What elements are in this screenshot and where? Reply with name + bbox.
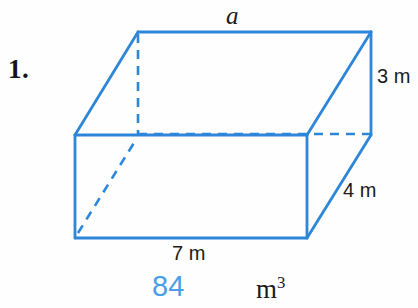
answer-unit-cubic-meters: m3 [256,276,285,303]
unit-base: m [256,274,277,304]
visible-edges-group [75,32,371,238]
rectangular-prism-figure [0,0,418,308]
hidden-edge-back-left-diagonal [78,138,137,233]
worksheet-figure-screenshot: 1. a 3 m 4 m 7 m 84 m3 [0,0,418,308]
edge-top-right [307,32,371,135]
problem-number: 1. [8,56,29,83]
answer-input-value[interactable]: 84 [152,272,184,301]
edge-top-left [75,32,138,135]
label-depth-4m: 4 m [343,180,376,200]
unit-exponent: 3 [277,273,285,292]
label-height-3m: 3 m [377,66,410,86]
label-width-7m: 7 m [172,243,205,263]
label-top-edge-a: a [226,3,239,28]
